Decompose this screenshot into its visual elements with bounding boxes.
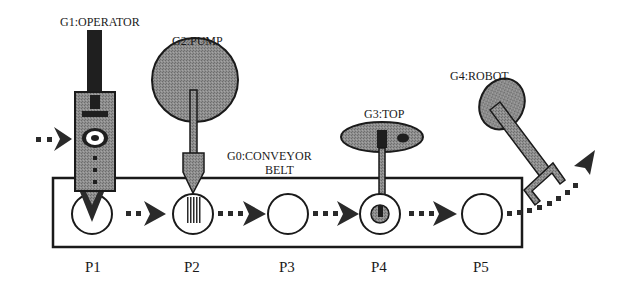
outgoing-flow-arrow-icon (507, 150, 595, 216)
top-knob (397, 134, 409, 143)
conveyor-label-line1: G0:CONVEYOR (227, 149, 312, 163)
operator-arm-tip (90, 95, 100, 109)
position-p3-part (268, 194, 308, 234)
pump-device (152, 38, 238, 234)
position-label-p2: P2 (184, 259, 200, 275)
flow-arrow-p3-p4-icon (313, 201, 359, 226)
workcell-diagram: G1:OPERATOR G2:PUMP G3:TOP G4:ROBOT G0:C… (0, 0, 625, 285)
robot-label: G4:ROBOT (450, 69, 509, 83)
conveyor-label-line2: BELT (265, 163, 295, 177)
robot-device (471, 71, 565, 205)
position-label-p3: P3 (279, 259, 295, 275)
flow-arrow-p2-p3-icon (218, 201, 266, 226)
position-label-p5: P5 (473, 259, 489, 275)
position-label-p1: P1 (85, 259, 101, 275)
pump-pipe (190, 90, 197, 154)
position-p5-part (462, 194, 502, 234)
incoming-flow-arrow-icon (36, 127, 72, 151)
pump-label: G2:PUMP (172, 34, 223, 48)
operator-label: G1:OPERATOR (60, 15, 140, 29)
operator-slot (82, 111, 108, 117)
flow-arrow-p1-p2-icon (126, 201, 166, 226)
position-label-p4: P4 (371, 259, 387, 275)
top-label: G3:TOP (364, 107, 405, 121)
flow-arrow-p4-p5-icon (409, 201, 457, 226)
operator-device (72, 30, 115, 234)
pump-nozzle (183, 153, 204, 193)
top-block (377, 130, 387, 148)
